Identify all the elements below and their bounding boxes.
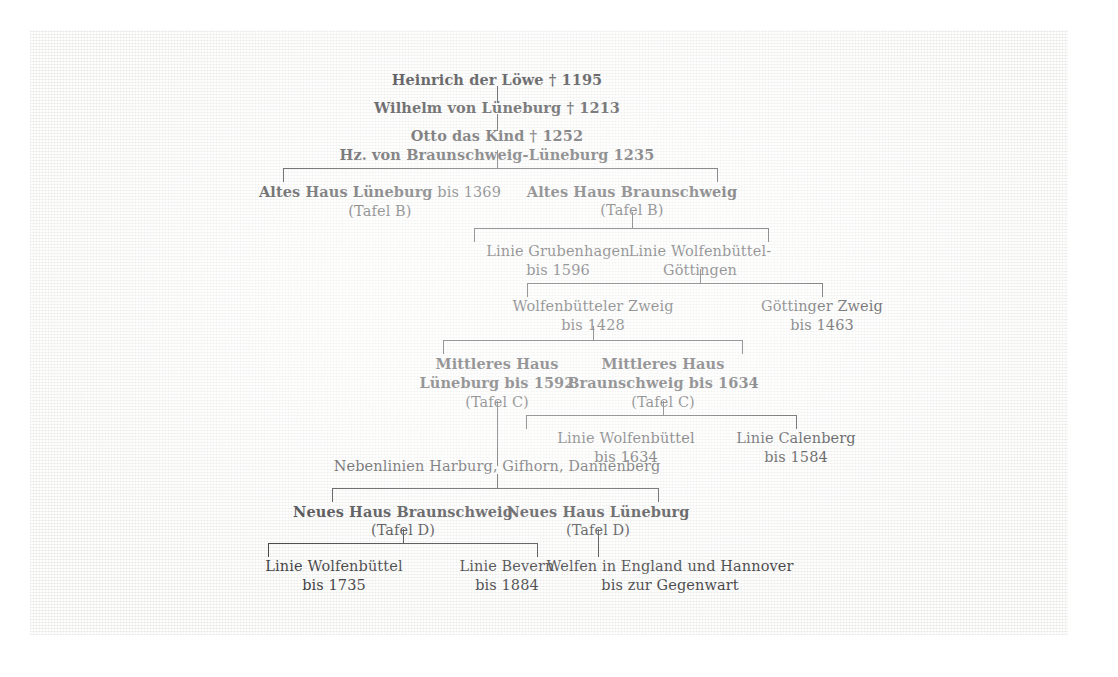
node-wolfenbuetteler-zweig: Wolfenbütteler Zweig bis 1428 bbox=[512, 297, 673, 336]
node-nebenlinien-label: Nebenlinien Harburg, Gifhorn, Dannenberg bbox=[334, 458, 661, 474]
node-mittleres-haus-lueneburg-line2: Lüneburg bis 1592 bbox=[420, 373, 575, 392]
node-linie-calenberg-line2: bis 1584 bbox=[736, 448, 855, 467]
node-neues-haus-lueneburg-tafel: (Tafel D) bbox=[506, 521, 689, 540]
node-welfen-england-hannover: Welfen in England und Hannover bis zur G… bbox=[546, 557, 793, 596]
node-linie-grubenhagen-line1: Linie Grubenhagen bbox=[486, 242, 629, 261]
bracket-neues-braunschweig-drop bbox=[332, 488, 333, 502]
node-otto-line2: Hz. von Braunschweig-Lüneburg 1235 bbox=[340, 145, 655, 164]
node-mittleres-haus-lueneburg-tafel: (Tafel C) bbox=[420, 393, 575, 412]
node-altes-haus-braunschweig: Altes Haus Braunschweig (Tafel B) bbox=[527, 182, 737, 221]
node-welfen-line2: bis zur Gegenwart bbox=[546, 576, 793, 595]
bracket-grubenhagen-left-drop bbox=[474, 228, 475, 242]
bracket-neues-lueneburg-drop bbox=[658, 488, 659, 502]
node-welfen-line1: Welfen in England und Hannover bbox=[546, 557, 793, 576]
node-mittleres-haus-braunschweig-tafel: (Tafel C) bbox=[567, 393, 759, 412]
node-wolfenbuetteler-zweig-line2: bis 1428 bbox=[512, 316, 673, 335]
node-mittleres-haus-braunschweig-line1: Mittleres Haus bbox=[567, 354, 759, 373]
bracket-linie-calenberg-drop bbox=[796, 415, 797, 429]
bracket-wolfenbuetteler-zweig-drop bbox=[527, 283, 528, 297]
node-mittleres-haus-braunschweig-line2: Braunschweig bis 1634 bbox=[567, 373, 759, 392]
node-linie-grubenhagen: Linie Grubenhagen bis 1596 bbox=[486, 242, 629, 281]
node-mittleres-haus-braunschweig: Mittleres Haus Braunschweig bis 1634 (Ta… bbox=[567, 354, 759, 412]
node-linie-bevern-line2: bis 1884 bbox=[460, 576, 555, 595]
bracket-linien-grubenhagen-wolfenbuettel bbox=[474, 228, 768, 229]
node-linie-wolfenbuettel-goettingen-line2: Göttingen bbox=[629, 261, 771, 280]
node-heinrich-label: Heinrich der Löwe † 1195 bbox=[392, 71, 603, 88]
bracket-mittleres-braunschweig-drop bbox=[742, 340, 743, 354]
node-altes-haus-braunschweig-tafel: (Tafel B) bbox=[527, 201, 737, 220]
bracket-linie-wolfenbuettel-drop bbox=[526, 415, 527, 429]
node-goettinger-zweig: Göttinger Zweig bis 1463 bbox=[761, 297, 883, 336]
bracket-wolfenbuettel-goettingen-right-drop bbox=[768, 228, 769, 242]
node-mittleres-haus-lueneburg: Mittleres Haus Lüneburg bis 1592 (Tafel … bbox=[420, 354, 575, 412]
bracket-altes-haus bbox=[283, 168, 717, 169]
bracket-wolfenbuettel-bevern bbox=[268, 543, 537, 544]
bracket-altes-haus-left-drop bbox=[283, 168, 284, 182]
node-goettinger-zweig-line1: Göttinger Zweig bbox=[761, 297, 883, 316]
node-linie-wolfenbuettel-goettingen: Linie Wolfenbüttel- Göttingen bbox=[629, 242, 771, 281]
node-wilhelm-label: Wilhelm von Lüneburg † 1213 bbox=[374, 99, 620, 116]
node-linie-wolfenbuettel-1634-line1: Linie Wolfenbüttel bbox=[557, 429, 694, 448]
node-otto-line1: Otto das Kind † 1252 bbox=[340, 126, 655, 145]
node-linie-bevern: Linie Bevern bis 1884 bbox=[460, 557, 555, 596]
bracket-altes-haus-right-drop bbox=[717, 168, 718, 182]
bracket-linie-wolfenbuettel-1735-drop bbox=[268, 543, 269, 557]
node-neues-haus-braunschweig-tafel: (Tafel D) bbox=[293, 521, 513, 540]
node-wolfenbuetteler-zweig-line1: Wolfenbütteler Zweig bbox=[512, 297, 673, 316]
node-altes-haus-braunschweig-name: Altes Haus Braunschweig bbox=[527, 182, 737, 201]
bracket-neues-haus bbox=[332, 488, 658, 489]
node-neues-haus-braunschweig: Neues Haus Braunschweig (Tafel D) bbox=[293, 502, 513, 541]
node-mittleres-haus-lueneburg-line1: Mittleres Haus bbox=[420, 354, 575, 373]
node-altes-haus-lueneburg-date: bis 1369 bbox=[433, 184, 501, 200]
node-goettinger-zweig-line2: bis 1463 bbox=[761, 316, 883, 335]
node-heinrich-der-loewe: Heinrich der Löwe † 1195 bbox=[392, 70, 603, 90]
node-linie-grubenhagen-line2: bis 1596 bbox=[486, 261, 629, 280]
node-linie-wolfenbuettel-1735-line2: bis 1735 bbox=[265, 576, 402, 595]
bracket-linie-bevern-drop bbox=[537, 543, 538, 557]
genealogy-chart-page: Heinrich der Löwe † 1195 Wilhelm von Lün… bbox=[0, 0, 1118, 677]
node-linie-calenberg: Linie Calenberg bis 1584 bbox=[736, 429, 855, 468]
node-altes-haus-lueneburg-name: Altes Haus Lüneburg bbox=[259, 183, 433, 200]
node-neues-haus-lueneburg: Neues Haus Lüneburg (Tafel D) bbox=[506, 502, 689, 541]
bracket-goettinger-zweig-drop bbox=[822, 283, 823, 297]
bracket-mittleres-haus bbox=[443, 340, 742, 341]
bracket-zweige bbox=[527, 283, 822, 284]
node-otto-das-kind: Otto das Kind † 1252 Hz. von Braunschwei… bbox=[340, 126, 655, 165]
node-wilhelm-von-lueneburg: Wilhelm von Lüneburg † 1213 bbox=[374, 98, 620, 118]
node-nebenlinien: Nebenlinien Harburg, Gifhorn, Dannenberg bbox=[334, 457, 661, 476]
node-altes-haus-lueneburg: Altes Haus Lüneburg bis 1369 (Tafel B) bbox=[259, 182, 501, 222]
node-altes-haus-lueneburg-tafel: (Tafel B) bbox=[259, 202, 501, 221]
scanned-paper-area: Heinrich der Löwe † 1195 Wilhelm von Lün… bbox=[30, 30, 1068, 635]
bracket-mittleres-lueneburg-drop bbox=[443, 340, 444, 354]
node-linie-wolfenbuettel-1735: Linie Wolfenbüttel bis 1735 bbox=[265, 557, 402, 596]
node-linie-calenberg-line1: Linie Calenberg bbox=[736, 429, 855, 448]
bracket-linie-wolfenbuettel-calenberg bbox=[526, 415, 796, 416]
node-linie-wolfenbuettel-goettingen-line1: Linie Wolfenbüttel- bbox=[629, 242, 771, 261]
node-neues-haus-braunschweig-name: Neues Haus Braunschweig bbox=[293, 502, 513, 521]
node-neues-haus-lueneburg-name: Neues Haus Lüneburg bbox=[506, 502, 689, 521]
node-linie-bevern-line1: Linie Bevern bbox=[460, 557, 555, 576]
node-linie-wolfenbuettel-1735-line1: Linie Wolfenbüttel bbox=[265, 557, 402, 576]
